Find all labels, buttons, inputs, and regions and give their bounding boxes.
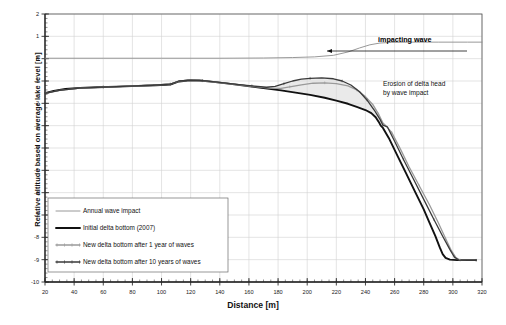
plot-canvas: 210-1-2-3-4-5-6-7-8-9-10 204060801001201… — [0, 0, 506, 325]
y-tick-label: 1 — [36, 33, 39, 39]
y-tick-label: -10 — [31, 279, 39, 285]
annotation-impacting-wave: impacting wave — [378, 35, 432, 44]
x-tick-label: 120 — [186, 289, 195, 295]
erosion-shaded-area — [264, 78, 383, 128]
y-tick-label: -5 — [34, 167, 39, 173]
erosion-area — [264, 78, 383, 128]
x-tick-label: 300 — [448, 289, 457, 295]
x-tick-label: 140 — [215, 289, 224, 295]
y-tick-label: -1 — [34, 78, 39, 84]
y-tick-label: 0 — [36, 56, 39, 62]
legend-label-3: New delta bottom after 10 years of waves — [83, 258, 201, 266]
x-tick-label: 180 — [273, 289, 282, 295]
x-tick-label: 200 — [303, 289, 312, 295]
y-tick-label: -2 — [34, 100, 39, 106]
x-tick-label: 100 — [157, 289, 166, 295]
chart-figure: Relative altitude based on average lake … — [0, 0, 506, 325]
x-tick-label: 60 — [100, 289, 106, 295]
x-tick-label: 20 — [42, 289, 48, 295]
legend: Annual wave impactInitial delta bottom (… — [48, 198, 228, 272]
y-tick-label: -7 — [34, 212, 39, 218]
legend-label-0: Annual wave impact — [83, 207, 140, 215]
x-tick-labels: 2040608010012014016018020022024026028030… — [42, 289, 487, 295]
y-tick-label: -9 — [34, 257, 39, 263]
x-tick-label: 220 — [332, 289, 341, 295]
x-tick-label: 160 — [244, 289, 253, 295]
annotation-erosion-line-2: by wave impact — [383, 89, 429, 97]
y-tick-label: -6 — [34, 190, 39, 196]
y-tick-label: -8 — [34, 234, 39, 240]
legend-label-1: Initial delta bottom (2007) — [83, 224, 155, 232]
x-tick-label: 240 — [361, 289, 370, 295]
y-tick-label: 2 — [36, 11, 39, 17]
series-line-0 — [45, 42, 482, 58]
annotation-erosion-line-1: Erosion of delta head — [383, 80, 446, 87]
x-tick-label: 80 — [129, 289, 135, 295]
legend-label-2: New delta bottom after 1 year of waves — [83, 241, 194, 249]
x-tick-label: 260 — [390, 289, 399, 295]
x-tick-label: 40 — [71, 289, 77, 295]
y-tick-labels: 210-1-2-3-4-5-6-7-8-9-10 — [31, 11, 39, 285]
y-tick-label: -3 — [34, 123, 39, 129]
y-tick-label: -4 — [34, 145, 39, 151]
x-tick-label: 320 — [477, 289, 486, 295]
x-tick-label: 280 — [419, 289, 428, 295]
